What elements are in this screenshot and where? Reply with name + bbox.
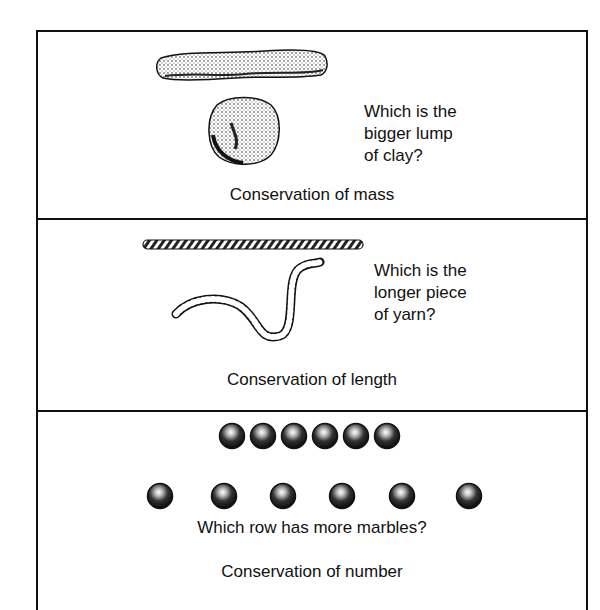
question-line: Which is the <box>374 260 467 282</box>
marble-row-spread <box>146 482 490 510</box>
question-line: longer piece <box>374 282 467 304</box>
marble-row-compact <box>218 422 410 450</box>
question-number: Which row has more marbles? <box>36 518 588 538</box>
marble-icon <box>282 424 307 449</box>
marble-icon <box>457 484 482 509</box>
panel-divider <box>36 218 588 220</box>
question-line: of yarn? <box>374 304 467 326</box>
question-line: Which is the <box>364 101 457 123</box>
caption-number: Conservation of number <box>36 562 588 582</box>
straight-yarn-icon <box>142 238 366 252</box>
question-line: of clay? <box>364 145 457 167</box>
marble-icon <box>375 424 400 449</box>
question-mass: Which is the bigger lump of clay? <box>364 101 457 167</box>
clay-ball-icon <box>205 95 283 167</box>
marble-icon <box>390 484 415 509</box>
marble-icon <box>271 484 296 509</box>
marble-icon <box>330 484 355 509</box>
caption-length: Conservation of length <box>36 370 588 390</box>
marble-icon <box>313 424 338 449</box>
clay-log-icon <box>155 48 330 84</box>
question-length: Which is the longer piece of yarn? <box>374 260 467 326</box>
caption-mass: Conservation of mass <box>36 185 588 205</box>
marble-icon <box>251 424 276 449</box>
marble-icon <box>220 424 245 449</box>
panel-divider <box>36 410 588 412</box>
marble-icon <box>148 484 173 509</box>
curved-yarn-icon <box>170 258 330 348</box>
marble-icon <box>344 424 369 449</box>
marble-icon <box>212 484 237 509</box>
question-line: bigger lump <box>364 123 457 145</box>
